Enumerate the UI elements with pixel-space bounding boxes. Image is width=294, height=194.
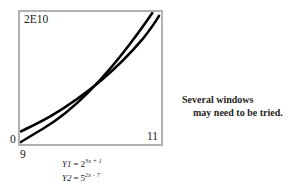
annotation-line-2: may need to be tried. [182,106,283,119]
equals-sign-2: = [72,173,81,183]
equation-y1: Y1=23x + 1 [62,156,102,170]
graph-figure: 2E10 0 9 11 Y1=23x + 1 Y2=52x - 7 Severa… [0,0,294,194]
y-max-label: 2E10 [24,14,48,26]
plot-frame [18,10,163,146]
equation-y2: Y2=52x - 7 [62,170,102,184]
equation-y2-name: Y2 [62,173,72,183]
annotation-line-1: Several windows [182,93,283,106]
curves-svg [20,12,161,144]
x-max-label: 11 [147,131,158,143]
y-min-label: 0 [10,134,16,146]
x-min-label: 9 [20,149,26,161]
equation-y1-exponent: 3x + 1 [85,158,102,164]
equals-sign-1: = [72,159,81,169]
equation-y2-exponent: 2x - 7 [85,172,100,178]
equation-y1-name: Y1 [62,159,72,169]
annotation-note: Several windows may need to be tried. [182,93,283,119]
equation-legend: Y1=23x + 1 Y2=52x - 7 [62,156,102,183]
